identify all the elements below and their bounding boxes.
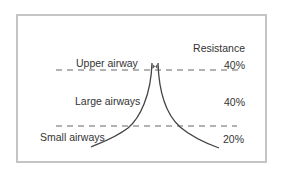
vocal-cord-left-marker bbox=[153, 64, 156, 69]
resistance-value-large-airways: 40% bbox=[224, 97, 245, 108]
airway-resistance-diagram bbox=[0, 0, 283, 176]
region-label-small-airways: Small airways bbox=[40, 132, 105, 143]
vocal-cord-right-marker bbox=[155, 64, 157, 69]
region-label-large-airways: Large airways bbox=[75, 96, 140, 107]
region-label-upper-airway: Upper airway bbox=[76, 58, 138, 69]
right-airway-curve bbox=[158, 63, 219, 148]
resistance-header: Resistance bbox=[193, 43, 245, 54]
resistance-value-upper-airway: 40% bbox=[224, 60, 245, 71]
resistance-value-small-airways: 20% bbox=[223, 134, 244, 145]
